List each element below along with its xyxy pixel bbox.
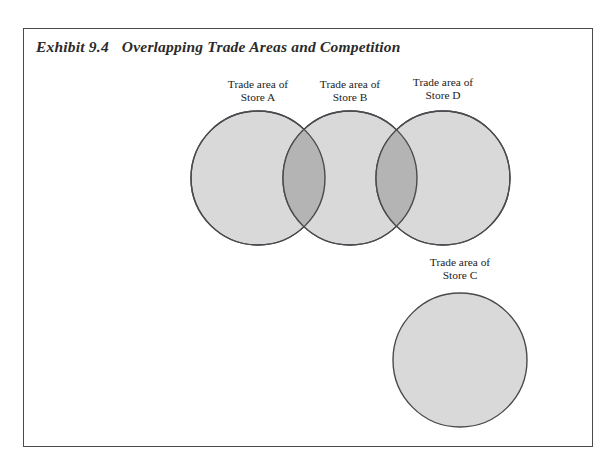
trade-area-label-d-line2: Store D	[385, 89, 501, 102]
trade-area-label-c: Trade area of Store C	[402, 256, 518, 283]
trade-area-label-c-line1: Trade area of	[402, 256, 518, 269]
exhibit-number: Exhibit 9.4	[36, 38, 109, 55]
trade-area-label-c-line2: Store C	[402, 269, 518, 282]
trade-area-label-d-line1: Trade area of	[385, 76, 501, 89]
page-title: Exhibit 9.4Overlapping Trade Areas and C…	[36, 38, 401, 56]
trade-area-label-d: Trade area of Store D	[385, 76, 501, 103]
exhibit-title-text: Overlapping Trade Areas and Competition	[122, 38, 401, 55]
